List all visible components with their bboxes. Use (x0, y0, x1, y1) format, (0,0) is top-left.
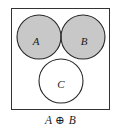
set-label-c: C (57, 78, 65, 90)
set-label-a: A (32, 35, 40, 47)
venn-diagram-figure: A B C A ⊕ B (0, 0, 121, 135)
figure-caption: A ⊕ B (0, 113, 121, 127)
set-label-b: B (81, 35, 88, 47)
